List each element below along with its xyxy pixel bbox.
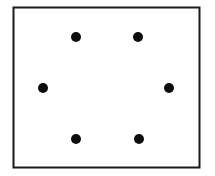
dot-pattern-canvas [0, 0, 215, 176]
dot-top-left [71, 32, 81, 42]
dot-middle-left [38, 83, 48, 93]
dot-bottom-left [71, 134, 81, 144]
dot-middle-right [164, 83, 174, 93]
figure-root: Six Dot Hexagonal Pattern White rectangu… [0, 0, 215, 176]
dot-bottom-right [134, 134, 144, 144]
dot-top-right [133, 32, 143, 42]
